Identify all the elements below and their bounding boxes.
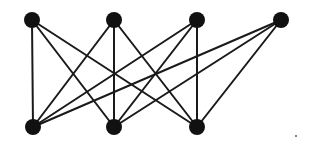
- node-t3: [189, 12, 205, 28]
- node-t1: [24, 12, 40, 28]
- graph-diagram: [0, 0, 309, 146]
- node-t4: [273, 12, 289, 28]
- edge-t4-b1: [33, 20, 281, 127]
- marks-layer: [295, 135, 297, 137]
- node-b3: [189, 119, 205, 135]
- edges-layer: [32, 20, 281, 127]
- edge-t4-b3: [197, 20, 281, 127]
- node-t2: [106, 12, 122, 28]
- edge-t1-b1: [32, 20, 33, 127]
- stray-dot-mark: [295, 135, 297, 137]
- node-b1: [25, 119, 41, 135]
- bipartite-graph-svg: [0, 0, 309, 146]
- node-b2: [106, 119, 122, 135]
